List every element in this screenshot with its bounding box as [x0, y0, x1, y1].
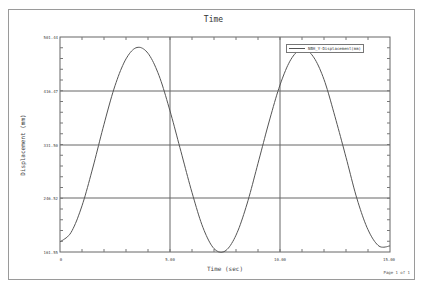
data-series-line — [60, 47, 390, 252]
gridlines — [60, 37, 390, 252]
legend: NBH_Y-Displacement(mm) — [286, 44, 364, 53]
legend-label: NBH_Y-Displacement(mm) — [308, 46, 361, 51]
legend-line-swatch — [289, 48, 305, 49]
plot-area — [0, 0, 427, 286]
